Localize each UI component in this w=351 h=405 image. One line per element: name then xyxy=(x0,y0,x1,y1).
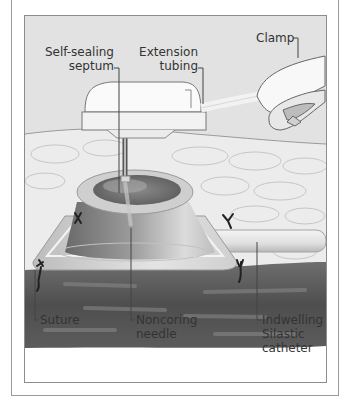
label-text: catheter xyxy=(262,341,323,355)
label-text: Indwelling xyxy=(262,313,323,327)
label-text: tubing xyxy=(115,59,198,73)
label-text: Clamp xyxy=(256,31,294,45)
label-text: septum xyxy=(25,59,114,73)
label-noncoring-needle: Noncoring needle xyxy=(136,313,197,341)
label-suture: Suture xyxy=(40,313,80,327)
label-text: needle xyxy=(136,327,197,341)
label-indwelling-silastic-catheter: Indwelling Silastic catheter xyxy=(262,313,323,355)
label-text: Noncoring xyxy=(136,313,197,327)
illustration-panel: Self-sealing septum Extension tubing Cla… xyxy=(24,15,327,383)
label-text: Suture xyxy=(40,313,80,327)
label-text: Silastic xyxy=(262,327,323,341)
label-text: Extension xyxy=(115,45,198,59)
label-self-sealing-septum: Self-sealing septum xyxy=(25,45,114,73)
label-clamp: Clamp xyxy=(256,31,294,45)
label-extension-tubing: Extension tubing xyxy=(115,45,198,73)
label-text: Self-sealing xyxy=(25,45,114,59)
